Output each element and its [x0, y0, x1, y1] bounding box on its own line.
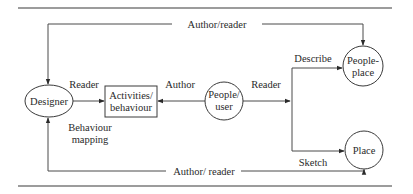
edge-people-branch: Reader — [243, 79, 290, 101]
node-people-place: People- place — [343, 46, 383, 86]
edge-people-activities: Author — [158, 79, 205, 101]
people-user-label-2: user — [215, 101, 233, 112]
node-people-user: People/ user — [205, 82, 243, 120]
edge-top-author-reader: Author/reader — [48, 19, 363, 84]
label-sketch: Sketch — [299, 157, 328, 168]
edge-branch: Describe Sketch — [292, 53, 344, 168]
people-place-label-1: People- — [347, 55, 380, 66]
diagram-canvas: Author/reader Author/ reader Reader Auth… — [0, 0, 413, 194]
designer-label: Designer — [30, 96, 68, 107]
label-bottom-author-reader: Author/ reader — [173, 166, 235, 177]
label-top-author-reader: Author/reader — [188, 19, 247, 30]
label-behaviour-mapping-2: mapping — [72, 134, 109, 145]
place-label: Place — [353, 145, 376, 156]
node-designer: Designer — [25, 85, 73, 117]
activities-label-1: Activities/ — [109, 90, 153, 101]
activities-label-2: behaviour — [110, 102, 152, 113]
label-author: Author — [165, 79, 195, 90]
node-activities-behaviour: Activities/ behaviour — [105, 86, 157, 117]
node-place: Place — [345, 131, 383, 169]
label-reader-right: Reader — [251, 79, 281, 90]
label-reader-left: Reader — [69, 79, 99, 90]
people-user-label-1: People/ — [208, 89, 240, 100]
edge-designer-activities: Reader — [69, 79, 104, 101]
label-behaviour-mapping-1: Behaviour — [68, 122, 112, 133]
label-describe: Describe — [294, 53, 332, 64]
people-place-label-2: place — [352, 67, 374, 78]
diagram-svg: Author/reader Author/ reader Reader Auth… — [0, 0, 413, 194]
